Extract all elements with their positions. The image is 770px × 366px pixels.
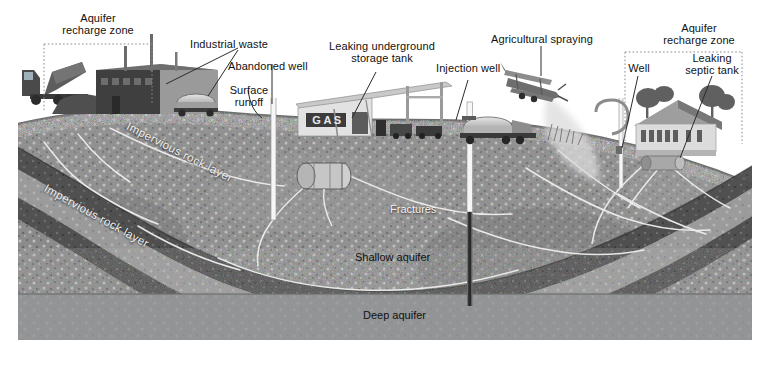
- injection-well-tanker-graphic: [460, 116, 536, 144]
- label-injection-well: Injection well: [436, 62, 526, 74]
- label-aquifer-recharge-zone-right: Aquifer recharge zone: [640, 22, 758, 47]
- label-well: Well: [620, 62, 658, 74]
- house-graphic: [616, 85, 735, 170]
- diagram-canvas: Impervious rock layer Impervious rock la…: [0, 0, 770, 366]
- label-leaking-septic-tank: Leaking septic tank: [666, 52, 758, 77]
- label-industrial-waste: Industrial waste: [190, 38, 300, 50]
- gas-station-graphic: [296, 82, 452, 140]
- label-surface-runoff: Surface runoff: [214, 84, 284, 109]
- label-agricultural-spraying: Agricultural spraying: [476, 33, 608, 45]
- label-aquifer-recharge-zone-left: Aquifer recharge zone: [32, 12, 164, 37]
- gas-station-sign-text: GAS: [308, 114, 348, 126]
- label-leaking-underground-storage-tank: Leaking underground storage tank: [316, 40, 448, 65]
